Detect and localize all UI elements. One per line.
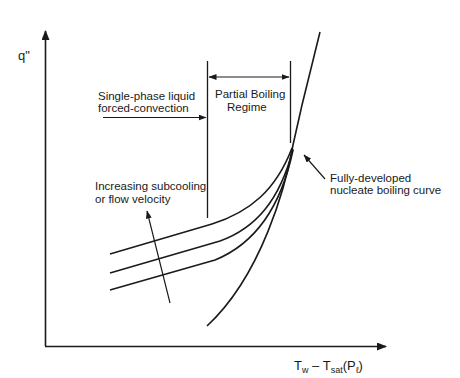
partial-boiling-label-line2: Regime xyxy=(227,101,267,113)
subcooling-label-line1: Increasing subcooling xyxy=(95,180,206,192)
forced-convection-curve-3 xyxy=(110,150,293,290)
fully-developed-nucleate-boiling-curve xyxy=(207,32,320,326)
subcooling-label-line2: or flow velocity xyxy=(95,193,171,205)
single-phase-label-line1: Single-phase liquid xyxy=(98,90,195,102)
fully-developed-pointer-arrow xyxy=(304,155,325,179)
partial-boiling-label-line1: Partial Boiling xyxy=(215,88,285,100)
single-phase-label-line2: forced-convection xyxy=(98,102,189,114)
fully-developed-label-line2: nucleate boiling curve xyxy=(330,184,441,196)
boiling-curve-diagram: q" Tw – Tsat(Pℓ) Partial Boiling Regime … xyxy=(0,0,460,378)
x-axis-label: Tw – Tsat(Pℓ) xyxy=(294,358,363,375)
fully-developed-label-line1: Fully-developed xyxy=(330,172,411,184)
y-axis-label: q" xyxy=(18,48,30,63)
forced-convection-curve-2 xyxy=(110,149,293,273)
